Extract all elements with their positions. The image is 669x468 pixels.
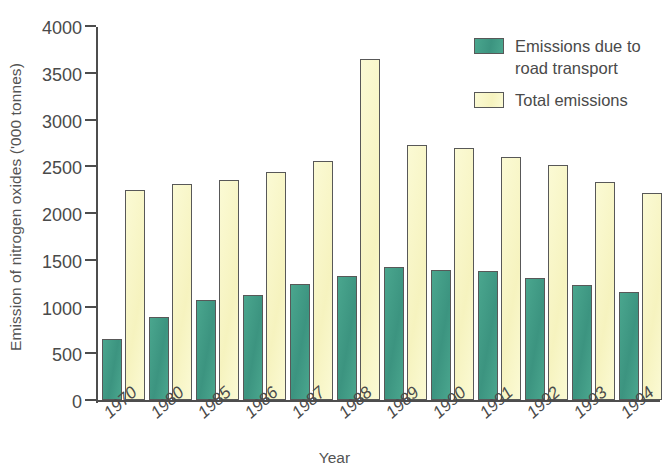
bar-group [102, 26, 143, 400]
bar-total-emissions [548, 165, 568, 400]
bar-road-transport [196, 300, 216, 400]
y-axis-tick [85, 306, 96, 308]
y-axis-tick-label: 1500 [4, 253, 82, 271]
bar-road-transport [243, 295, 263, 400]
bar-road-transport [525, 278, 545, 400]
bar-group [431, 26, 472, 400]
legend-item-road-transport: Emissions due to road transport [474, 36, 669, 80]
bar-total-emissions [266, 172, 286, 400]
y-axis-tick-label: 0 [4, 393, 82, 411]
bar-total-emissions [313, 161, 333, 400]
bar-road-transport [572, 285, 592, 400]
bar-road-transport [431, 270, 451, 400]
bar-group [196, 26, 237, 400]
bar-total-emissions [172, 184, 192, 400]
bar-total-emissions [501, 157, 521, 400]
bar-total-emissions [454, 148, 474, 400]
y-axis-tick-label: 3500 [4, 66, 82, 84]
legend-item-total-emissions: Total emissions [474, 90, 669, 112]
y-axis-tick [85, 259, 96, 261]
chart-legend: Emissions due to road transport Total em… [474, 36, 669, 121]
bar-group [149, 26, 190, 400]
bar-total-emissions [360, 59, 380, 400]
y-axis-tick-label: 1000 [4, 300, 82, 318]
y-axis-tick [85, 212, 96, 214]
bar-total-emissions [125, 190, 145, 400]
bar-road-transport [149, 317, 169, 400]
bar-road-transport [384, 267, 404, 400]
road-transport-swatch-icon [474, 38, 504, 54]
bar-road-transport [478, 271, 498, 400]
y-axis-tick-label: 4000 [4, 19, 82, 37]
bar-total-emissions [642, 193, 662, 400]
y-axis-tick-label: 2500 [4, 159, 82, 177]
bar-group [384, 26, 425, 400]
bar-total-emissions [219, 180, 239, 400]
bar-group [337, 26, 378, 400]
x-axis-title: Year [0, 449, 669, 467]
bar-total-emissions [407, 145, 427, 400]
bar-total-emissions [595, 182, 615, 400]
bar-road-transport [290, 284, 310, 400]
legend-label-total-emissions: Total emissions [515, 90, 628, 112]
bar-group [243, 26, 284, 400]
y-axis-tick [85, 399, 96, 401]
y-axis-tick [85, 119, 96, 121]
nitrogen-oxides-bar-chart: Emission of nitrogen oxides ('000 tonnes… [0, 0, 669, 468]
y-axis-tick [85, 72, 96, 74]
bar-road-transport [337, 276, 357, 400]
y-axis-tick-label: 3000 [4, 113, 82, 131]
bar-road-transport [619, 292, 639, 400]
bar-group [290, 26, 331, 400]
y-axis-tick [85, 165, 96, 167]
y-axis-line [96, 27, 98, 403]
y-axis-tick [85, 352, 96, 354]
legend-label-road-transport: Emissions due to road transport [515, 36, 665, 80]
y-axis-tick-label: 2000 [4, 206, 82, 224]
y-axis-tick [85, 25, 96, 27]
y-axis-tick-label: 500 [4, 346, 82, 364]
total-emissions-swatch-icon [474, 92, 504, 108]
